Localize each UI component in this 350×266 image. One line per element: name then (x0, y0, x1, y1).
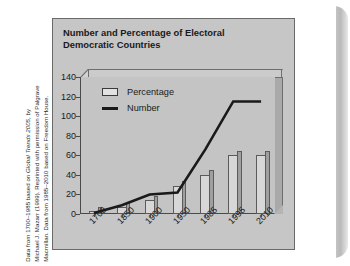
y-axis-tick-label: 0 (71, 209, 76, 219)
chart-figure: Number and Percentage of Electoral Democ… (52, 18, 295, 250)
bar-percentage-2010 (256, 155, 266, 214)
legend-item-percentage: Percentage (102, 85, 174, 99)
bar-percentage-1995 (228, 155, 238, 214)
legend-item-number: Number (102, 101, 174, 115)
figure-source-caption: Data from 1700–1985 based on Global Tren… (23, 30, 51, 262)
y-axis-tick-label: 80 (66, 131, 76, 141)
y-axis-tick (76, 214, 80, 215)
legend-label-percentage: Percentage (127, 87, 174, 97)
legend-line-swatch-icon (102, 107, 118, 110)
y-axis-tick (76, 97, 80, 98)
page-edge-shadow (334, 6, 348, 258)
x-axis-tick (94, 214, 95, 217)
x-axis-tick (122, 214, 123, 217)
caption-line-1: Data from 1700–1985 based on Global Tren… (23, 30, 32, 262)
y-axis-tick (76, 155, 80, 156)
y-axis-tick-label: 20 (66, 189, 76, 199)
y-axis-tick (76, 136, 80, 137)
caption-line-2: Michael J. Mazarr (1999). Reprinted with… (32, 30, 41, 262)
y-axis-tick (76, 194, 80, 195)
x-axis-tick (205, 214, 206, 217)
plot-right-wall (274, 77, 283, 214)
x-axis-tick (178, 214, 179, 217)
legend-bar-swatch-icon (102, 88, 118, 96)
x-axis-tick (261, 214, 262, 217)
y-axis-tick-label: 100 (61, 111, 76, 121)
y-axis-tick-label: 60 (66, 150, 76, 160)
x-axis-tick (233, 214, 234, 217)
chart-legend: Percentage Number (102, 85, 174, 117)
y-axis-tick-label: 40 (66, 170, 76, 180)
y-axis-tick (76, 175, 80, 176)
page-edge-highlight (326, 6, 336, 258)
y-axis-tick-label: 120 (61, 92, 76, 102)
y-axis-tick (76, 116, 80, 117)
caption-line-3: Macmillan. Data from 1985–2010 based on … (42, 30, 51, 262)
chart-title: Number and Percentage of Electoral Democ… (63, 27, 278, 50)
y-axis-tick (76, 77, 80, 78)
x-axis-tick (150, 214, 151, 217)
legend-label-number: Number (127, 103, 160, 113)
y-axis-tick-label: 140 (61, 72, 76, 82)
plot-area: 020406080100120140 170018501900195019851… (80, 69, 290, 214)
